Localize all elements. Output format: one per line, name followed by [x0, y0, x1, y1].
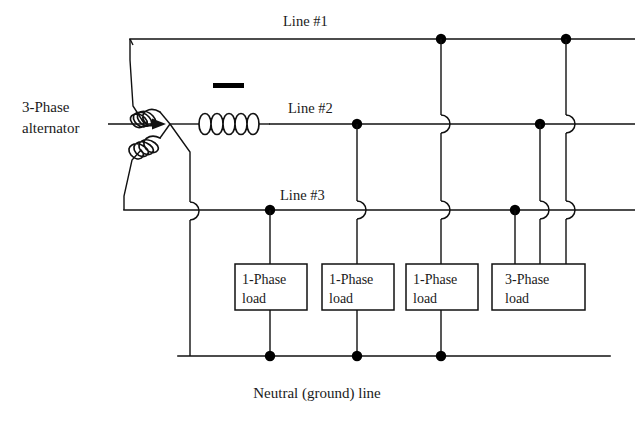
load-box-3-label-line-1: 1-Phase [413, 272, 457, 287]
alternator-label-line-2: alternator [22, 120, 79, 136]
schematic-canvas: 3-Phase alternator Line #1 Line #2 Line … [0, 0, 635, 423]
load-box-4-label-line-2: load [505, 291, 529, 306]
circuit-diagram: 3-Phase alternator Line #1 Line #2 Line … [0, 0, 635, 423]
load-box-2-label-line-2: load [329, 291, 353, 306]
drop-3phase-from-line2 [535, 119, 549, 264]
load-box-1-label-line-1: 1-Phase [242, 272, 286, 287]
line-1-label: Line #1 [283, 13, 328, 29]
drop-load-2 [352, 119, 366, 361]
load-box-4-label-line-1: 3-Phase [505, 272, 549, 287]
neutral-line-caption: Neutral (ground) line [253, 385, 381, 402]
drop-3phase-from-line3 [510, 205, 520, 264]
drop-3phase-from-line1 [561, 34, 575, 264]
phase-bar-marker-icon [213, 83, 244, 88]
load-box-3-label-line-2: load [413, 291, 437, 306]
line-3-label: Line #3 [280, 187, 325, 203]
drop-load-3 [436, 34, 450, 361]
load-box-2-label-line-1: 1-Phase [329, 272, 373, 287]
line-2-label: Line #2 [288, 100, 333, 116]
load-box-1-label-line-2: load [242, 291, 266, 306]
alternator-label-line-1: 3-Phase [22, 99, 70, 115]
